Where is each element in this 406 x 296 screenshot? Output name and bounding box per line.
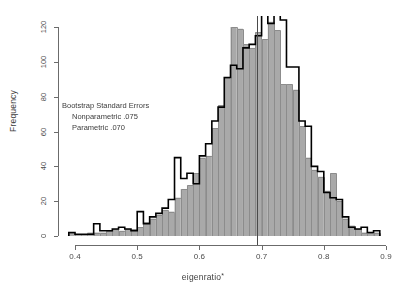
y-axis-line bbox=[58, 27, 59, 236]
y-axis-tick-label-text: 60 bbox=[39, 127, 48, 135]
x-axis-tick-label: 0.6 bbox=[194, 252, 205, 261]
y-axis-tick-label-text: 80 bbox=[39, 92, 48, 100]
x-axis-tick bbox=[262, 246, 263, 250]
histogram-figure: 020406080100120 0.40.50.60.70.80.9 Frequ… bbox=[0, 0, 406, 296]
x-axis-tick-label: 0.5 bbox=[131, 252, 142, 261]
y-axis-tick-label-text: 0 bbox=[39, 234, 48, 238]
y-axis-tick bbox=[54, 236, 58, 237]
x-axis-tick-label: 0.7 bbox=[256, 252, 267, 261]
x-axis-tick-label: 0.9 bbox=[380, 252, 391, 261]
y-axis-tick bbox=[54, 97, 58, 98]
y-axis-tick bbox=[54, 62, 58, 63]
y-axis-title: Frequency bbox=[8, 90, 18, 132]
x-axis-tick bbox=[386, 246, 387, 250]
annotation-block: Bootstrap Standard Errors Nonparametric … bbox=[62, 100, 149, 133]
y-axis-tick-label-text: 40 bbox=[39, 162, 48, 170]
x-axis-tick bbox=[324, 246, 325, 250]
y-axis-tick bbox=[54, 27, 58, 28]
x-axis-tick bbox=[137, 246, 138, 250]
y-axis-tick-label-text: 20 bbox=[39, 197, 48, 205]
y-axis-tick-label-text: 120 bbox=[39, 21, 48, 34]
x-axis-title: eigenratio* bbox=[0, 272, 406, 282]
x-axis-line bbox=[75, 245, 386, 246]
x-axis-tick-label: 0.8 bbox=[318, 252, 329, 261]
x-axis-title-superscript: * bbox=[221, 272, 224, 279]
x-axis-tick-label: 0.4 bbox=[69, 252, 80, 261]
y-axis-tick bbox=[54, 132, 58, 133]
annotation-parametric: Parametric .070 bbox=[62, 122, 149, 133]
x-axis-tick bbox=[199, 246, 200, 250]
annotation-nonparametric: Nonparametric .075 bbox=[62, 111, 149, 122]
y-axis-tick bbox=[54, 201, 58, 202]
x-axis-title-text: eigenratio bbox=[182, 272, 221, 282]
annotation-title: Bootstrap Standard Errors bbox=[62, 100, 149, 111]
y-axis-tick-label-text: 100 bbox=[39, 56, 48, 69]
y-axis-tick bbox=[54, 166, 58, 167]
x-axis-tick bbox=[75, 246, 76, 250]
observed-value-vline bbox=[257, 16, 258, 246]
